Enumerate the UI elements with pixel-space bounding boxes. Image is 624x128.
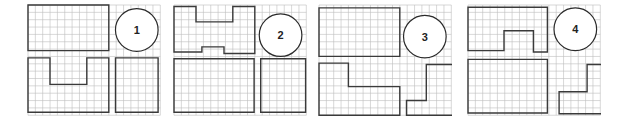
grid-background: 3 <box>319 5 452 115</box>
puzzle-panel-1: 1 <box>27 4 161 116</box>
grid-background: 4 <box>468 5 601 115</box>
grid-background: 2 <box>174 5 306 115</box>
panel-number-label: 1 <box>134 24 140 36</box>
number-badge: 2 <box>259 14 302 57</box>
square <box>116 58 159 112</box>
number-badge: 4 <box>554 8 597 51</box>
panel-number-label: 2 <box>278 29 284 41</box>
l-shape <box>559 65 601 114</box>
top-rectangle <box>28 5 109 51</box>
panel-4-canvas: 4 <box>467 4 601 116</box>
panel-number-label: 4 <box>572 23 579 35</box>
number-badge: 1 <box>115 9 158 52</box>
h-shape <box>174 7 255 54</box>
u-shape <box>28 58 109 112</box>
panel-3-canvas: 3 <box>318 4 452 116</box>
grid-background: 1 <box>28 5 160 115</box>
panel-1-canvas: 1 <box>27 4 161 116</box>
puzzle-panel-2: 2 <box>173 4 307 116</box>
puzzle-panel-4: 4 <box>467 4 601 116</box>
large-rectangle <box>174 59 254 113</box>
panel-2-canvas: 2 <box>173 4 307 116</box>
panel-number-label: 3 <box>422 31 428 43</box>
puzzle-panel-3: 3 <box>318 4 452 116</box>
number-badge: 3 <box>404 15 447 58</box>
notched-rectangle <box>468 7 547 52</box>
large-rectangle <box>468 59 547 113</box>
